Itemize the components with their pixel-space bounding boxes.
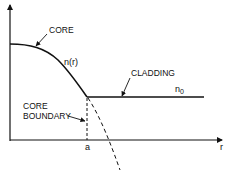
extrapolated-curve-dashed — [88, 98, 120, 170]
core-boundary-label-line2: BOUNDARY — [23, 111, 71, 121]
x-tick-a: a — [85, 142, 90, 152]
core-leader-arrow — [36, 34, 47, 46]
x-axis-label-r: r — [220, 142, 223, 152]
core-index-curve — [10, 44, 87, 97]
core-label: CORE — [49, 25, 74, 35]
cladding-leader-arrow — [122, 78, 130, 96]
fiber-index-profile-diagram: CORE n(r) CLADDING n0 CORE BOUNDARY a r — [0, 0, 227, 175]
core-boundary-label-line1: CORE — [23, 101, 48, 111]
n-r-label: n(r) — [64, 57, 78, 67]
cladding-label: CLADDING — [131, 68, 175, 78]
n0-label: n0 — [175, 84, 184, 95]
